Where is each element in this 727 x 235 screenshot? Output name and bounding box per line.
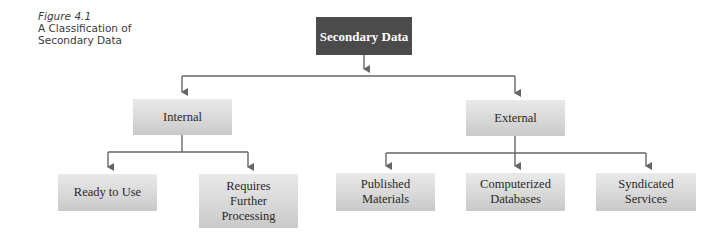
node-internal: Internal [133,99,232,135]
node-published-materials: Published Materials [336,173,435,211]
node-label: Syndicated Services [618,177,674,207]
node-label: Computerized Databases [480,177,551,207]
node-requires-further-processing: Requires Further Processing [199,174,298,228]
node-label: Published Materials [361,177,410,207]
node-label: Secondary Data [320,29,408,44]
node-syndicated-services: Syndicated Services [596,173,696,211]
node-label: Requires Further Processing [221,179,275,224]
node-secondary-data: Secondary Data [316,17,412,55]
node-label: External [494,111,536,126]
node-ready-to-use: Ready to Use [58,174,157,211]
node-computerized-databases: Computerized Databases [466,173,565,211]
node-label: Internal [163,110,202,125]
node-label: Ready to Use [74,185,141,200]
node-external: External [466,100,565,136]
